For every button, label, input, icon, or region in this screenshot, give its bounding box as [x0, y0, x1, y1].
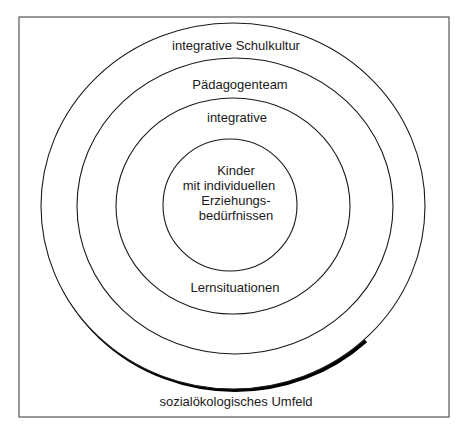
label-lernsituationen: Lernsituationen: [191, 280, 280, 295]
label-paedagogenteam: Pädagogenteam: [192, 77, 287, 92]
label-kinder-1: Kinder: [217, 163, 255, 178]
concentric-diagram: integrative Schulkultur Pädagogenteam in…: [0, 0, 465, 435]
label-schulkultur: integrative Schulkultur: [172, 38, 301, 53]
label-integrative: integrative: [207, 110, 267, 125]
label-kinder-3: Erziehungs-: [201, 193, 270, 208]
label-kinder-2: mit individuellen: [183, 178, 276, 193]
label-kinder-4: bedürfnissen: [199, 208, 273, 223]
label-umfeld: sozialökologisches Umfeld: [159, 394, 312, 409]
